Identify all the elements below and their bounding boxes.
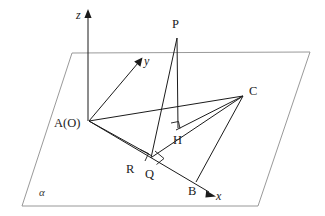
point-label-A: A(O) [54,116,80,130]
segment-PH [177,38,178,128]
x-axis [89,121,209,192]
diagram-canvas: z y x P C A(O) H R Q B α [0,0,325,216]
y-axis-label: y [143,54,150,68]
point-label-C: C [249,84,257,98]
plane-label-alpha: α [39,186,45,198]
right-angle-mark-R [140,150,149,162]
right-angle-mark-Q [155,151,164,165]
x-axis-arrow [205,191,216,198]
segment-CQ [152,96,243,157]
z-axis-label: z [75,8,81,22]
point-label-P: P [172,17,179,31]
point-label-H: H [173,133,182,147]
point-label-Q: Q [145,167,154,181]
y-axis [89,63,138,121]
point-label-B: B [188,184,196,198]
x-axis-label: x [215,189,222,203]
geometry-figure: z y x P C A(O) H R Q B α [0,0,325,216]
point-label-R: R [126,162,135,176]
right-angle-mark-H [171,122,180,129]
segment-AC [89,96,243,121]
z-axis-arrow [84,9,91,18]
segment-CB [196,96,243,182]
